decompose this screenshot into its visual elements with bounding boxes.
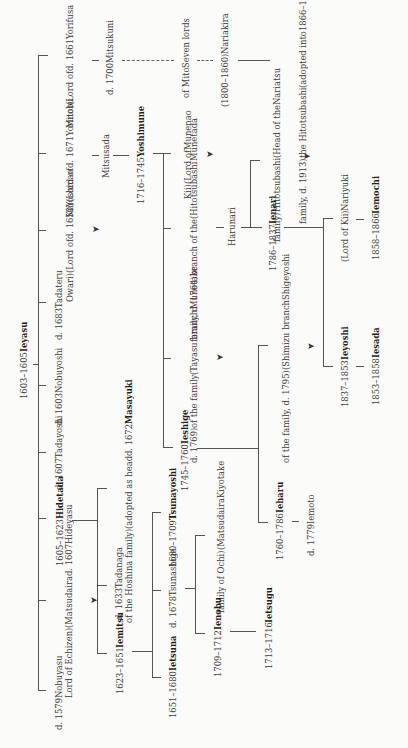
connector xyxy=(195,535,205,536)
continuation-arrow-icon: ➤ xyxy=(216,353,224,362)
person-iemoto: Iemoto d. 1779 xyxy=(299,502,322,548)
connector xyxy=(38,690,46,691)
person-shigeyoshi: Shigeyoshi (Shimizu branch of the family… xyxy=(268,312,304,404)
connector xyxy=(92,155,99,156)
connector xyxy=(38,452,46,453)
person-yorifusa: Yorifusa d. 1661 (Lord of Mito) xyxy=(48,35,92,97)
person-tsunashige: Tsunashige d. 1678 xyxy=(161,562,185,614)
person-nobuyasu: Nobuyasu d. 1579 xyxy=(47,668,71,718)
connector xyxy=(163,153,164,447)
connector xyxy=(38,230,46,231)
continuation-arrow-icon: ➤ xyxy=(90,596,98,605)
connector xyxy=(323,218,333,219)
connector xyxy=(195,633,205,634)
connector xyxy=(113,155,129,156)
connector xyxy=(72,520,97,521)
connector xyxy=(153,153,171,154)
connector xyxy=(197,448,258,449)
connector xyxy=(292,521,299,522)
person-yoshinao: Yoshinao d. 1650 (Lord of Owari) xyxy=(48,207,92,265)
person-munetake: Munetake (Tayasu branch of the family d.… xyxy=(171,327,217,403)
connector xyxy=(92,60,99,61)
connector xyxy=(152,590,161,591)
person-ienobu: Ienobu 1709–1712 xyxy=(206,612,230,662)
connector xyxy=(38,153,46,154)
continuation-arrow-icon: ➤ xyxy=(206,150,214,159)
connector xyxy=(250,160,251,227)
connector xyxy=(163,358,171,359)
continuation-arrow-icon: ➤ xyxy=(307,342,315,351)
connector xyxy=(284,227,323,228)
connector xyxy=(185,588,195,589)
person-harunari: Harunari xyxy=(224,203,240,251)
connector xyxy=(356,219,364,220)
connector-spine xyxy=(38,55,39,690)
connector xyxy=(258,345,259,522)
connector xyxy=(356,366,364,367)
connector xyxy=(163,447,173,448)
connector xyxy=(97,488,107,489)
connector-dashed xyxy=(122,60,174,61)
person-ietsugu: Ietsugu 1713–1716 xyxy=(257,602,281,654)
person-ieshige: Ieshige 1745–1760 xyxy=(173,427,197,473)
person-ieharu: Ieharu 1760–1786 xyxy=(268,494,292,548)
person-munetada: Munetada (Hitotsubashi branch of the fam… xyxy=(171,194,216,266)
connector xyxy=(38,600,46,601)
connector xyxy=(97,585,107,586)
connector xyxy=(241,227,262,228)
connector xyxy=(152,512,161,513)
connector xyxy=(38,385,46,386)
person-hideyasu: Hideyasu d. 1607 (Matsudaira Lord of Ech… xyxy=(47,556,90,646)
connector xyxy=(163,228,171,229)
person-iemitsu: Iemitsu 1623–1651 xyxy=(108,628,132,678)
person-ieyasu: Ieyasu 1603–1605 xyxy=(12,325,36,395)
connector xyxy=(38,302,46,303)
person-nariakira: Nariakira (1800–1860) xyxy=(213,30,237,90)
person-tadateru: Tadateru d. 1683 xyxy=(47,282,71,328)
person-tadayoshi: Tadayoshi d. 1607 xyxy=(47,426,71,480)
connector-dashed xyxy=(197,60,213,61)
person-nariatsu: Nariatsu (Head of the Hitotsubashi famil… xyxy=(260,126,294,184)
connector xyxy=(258,522,268,523)
person-ietsuna: Ietsuna 1651–1680 xyxy=(161,652,185,702)
connector xyxy=(230,631,256,632)
connector xyxy=(258,345,268,346)
connector xyxy=(97,488,98,653)
connector xyxy=(238,60,270,61)
family-tree-diagram: ➤ ➤ ➤ ➤ ➤ ➤ Ieyasu 1603–1605 Yorifusa d.… xyxy=(0,0,408,748)
person-tsunayoshi: Tsunayoshi 1680–1709 xyxy=(161,488,185,546)
person-masayuki: Masayuki d. 1672 (adopted as head of the… xyxy=(107,458,151,544)
person-yoshimune: Yoshimune 1716–1745 xyxy=(129,128,153,182)
person-kiyotake: Kiyotake (Matsudaira family of Ochi) xyxy=(205,498,237,576)
connector xyxy=(97,653,107,654)
continuation-arrow-icon: ➤ xyxy=(92,225,100,234)
connector xyxy=(250,160,260,161)
connector xyxy=(152,677,161,678)
connector xyxy=(216,227,224,228)
person-mitsusada: Mitsusada xyxy=(99,130,113,182)
connector xyxy=(323,366,333,367)
person-ieyoshi: Ieyoshi 1837–1853 xyxy=(333,342,356,392)
person-iesada: Iesada 1853–1858 xyxy=(364,340,388,392)
seven-lords-of-mito: Seven lords of Mito xyxy=(174,30,197,86)
connector xyxy=(323,218,324,366)
person-nariyuki: Nariyuki (Lord of Kii) xyxy=(333,190,357,246)
person-iemochi: Iemochi 1858–1866 xyxy=(364,190,388,246)
connector xyxy=(132,651,152,652)
person-mitsukuni: Mitsukuni d. 1700 xyxy=(99,30,121,86)
connector xyxy=(152,512,153,677)
connector xyxy=(195,535,196,633)
person-nobuyoshi: Nobuyoshi d. 1603 xyxy=(47,360,71,412)
person-tadanaga: Tadanaga d. 1633 xyxy=(107,560,131,606)
connector xyxy=(38,518,46,519)
connector xyxy=(38,55,48,56)
